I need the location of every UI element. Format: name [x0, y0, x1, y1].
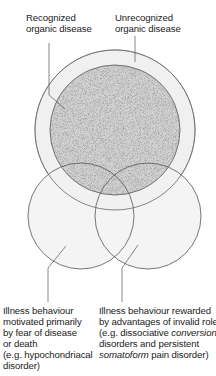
label-line: by fear of disease [3, 327, 93, 338]
label-italic-term: somatoform [99, 349, 149, 360]
label-line: disorders and persistent [99, 338, 216, 349]
label-line: disorder) [3, 360, 93, 371]
label-line: Illness behaviour [3, 305, 93, 316]
label-line: or death [3, 338, 93, 349]
label-fear-illness-behaviour: Illness behaviour motivated primarily by… [3, 305, 93, 371]
label-line: Unrecognized [115, 12, 181, 23]
label-line: motivated primarily [3, 316, 93, 327]
label-line: (e.g. dissociative conversion [99, 327, 216, 338]
label-line: somatoform pain disorder) [99, 349, 216, 360]
label-line: Illness behaviour rewarded [99, 305, 216, 316]
label-line: organic disease [26, 23, 92, 34]
label-text: (e.g. dissociative [99, 327, 171, 338]
label-line: organic disease [115, 23, 181, 34]
label-line: (e.g. hypochondriacal [3, 349, 93, 360]
label-line: Recognized [26, 12, 92, 23]
label-rewarded-illness-behaviour: Illness behaviour rewarded by advantages… [99, 305, 216, 360]
label-recognized-organic-disease: Recognized organic disease [26, 12, 92, 34]
label-italic-term: conversion [171, 327, 216, 338]
label-line: by advantages of invalid role [99, 316, 216, 327]
label-unrecognized-organic-disease: Unrecognized organic disease [115, 12, 181, 34]
label-text: pain disorder) [149, 349, 209, 360]
